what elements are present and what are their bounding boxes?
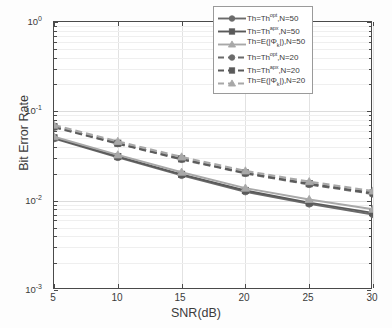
legend-label: Th=E(|Φk|),N=20: [247, 77, 305, 87]
series-2: [54, 133, 373, 213]
data-marker-triangle: [54, 121, 58, 128]
y-axis-tick: [54, 290, 58, 291]
x-tick-label: 5: [38, 292, 68, 303]
x-axis-tick: [373, 22, 374, 26]
legend-item[interactable]: Th=Thopt,N=50: [217, 11, 308, 24]
data-marker-triangle: [54, 133, 58, 140]
legend-symbol: [217, 50, 247, 63]
x-tick-label: 30: [357, 292, 387, 303]
series-line: [54, 125, 373, 191]
legend-symbol: [217, 37, 247, 50]
legend-item[interactable]: Th=Thapx,N=50: [217, 24, 308, 37]
data-marker-square: [229, 29, 234, 34]
y-axis-tick: [367, 290, 371, 291]
legend-label: Th=Thapx,N=50: [247, 26, 300, 36]
vertical-gridline: [373, 22, 374, 288]
x-tick-label: 25: [293, 292, 323, 303]
x-axis-tick: [373, 284, 374, 288]
data-marker-square: [229, 68, 234, 73]
series-line: [54, 137, 373, 210]
x-tick-label: 10: [102, 292, 132, 303]
legend-item[interactable]: Th=Thapx,N=20: [217, 63, 308, 76]
legend-label: Th=Thapx,N=20: [247, 65, 300, 75]
legend-label: Th=Thopt,N=50: [247, 13, 298, 23]
x-tick-label: 15: [165, 292, 195, 303]
y-tick-exponent: 0: [38, 15, 42, 22]
legend-label: Th=Thopt,N=20: [247, 52, 298, 62]
data-marker-circle: [229, 55, 235, 61]
legend-symbol: [217, 76, 247, 89]
legend-symbol: [217, 63, 247, 76]
series-4: [54, 124, 373, 196]
x-axis-title: SNR(dB): [0, 306, 392, 320]
chart-legend: Th=Thopt,N=50Th=Thapx,N=50Th=E(|Φk|),N=5…: [213, 6, 313, 94]
legend-item[interactable]: Th=E(|Φk|),N=20: [217, 76, 308, 89]
y-axis-title: Bit Error Rate: [17, 63, 31, 203]
y-tick-label: 10-3: [8, 283, 42, 295]
legend-label: Th=E(|Φk|),N=50: [247, 38, 305, 48]
legend-symbol: [217, 24, 247, 37]
bit-error-rate-chart: 100 10-1 10-2 10-3 5 10 15 20 25 30 SNR(…: [0, 0, 392, 328]
x-tick-label: 20: [229, 292, 259, 303]
y-tick-exponent: -3: [36, 283, 42, 290]
y-tick-label: 100: [8, 15, 42, 27]
series-1: [54, 135, 373, 216]
legend-symbol: [217, 11, 247, 24]
legend-item[interactable]: Th=Thopt,N=20: [217, 50, 308, 63]
y-tick-exponent: -2: [36, 194, 42, 201]
data-marker-circle: [229, 16, 235, 22]
y-tick-exponent: -1: [36, 104, 42, 111]
legend-item[interactable]: Th=E(|Φk|),N=50: [217, 37, 308, 50]
